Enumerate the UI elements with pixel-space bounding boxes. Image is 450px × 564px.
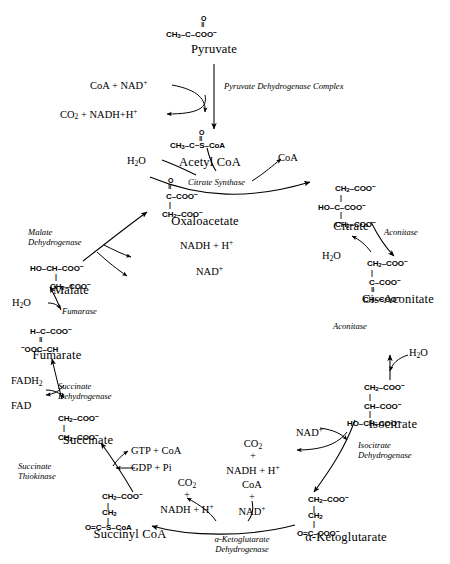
cofactor-fad: FAD [11,400,31,411]
citric-acid-cycle-diagram: O ‖ CH3–C–COO– Pyruvate CoA + NAD+ CO2 +… [0,0,450,564]
cofactor-nad-idh: NAD+ [296,425,323,438]
enzyme-malate-dehydrogenase: Malate Dehydrogenase [28,228,82,247]
enzyme-sdh-line2: Dehydrogenase [58,391,112,401]
enzyme-isocitrate-dehydrogenase: Isocitrate Dehydrogenase [358,441,412,460]
cofactor-gdp-pi: GDP + Pi [131,462,172,473]
label-malate: Malate [30,283,112,298]
label-cis-aconitate: Cis-Aconitate [348,292,448,307]
label-citrate: Citrate [316,219,386,234]
enzyme-mdh-line1: Malate [28,227,52,237]
structure-acetyl-coa: O ‖ CH3–C~S–CoA [170,130,225,152]
label-pyruvate: Pyruvate [166,42,262,57]
cofactor-coa-nad-in: CoA + NAD+ [90,78,147,91]
cofactor-fadh2: FADH2 [11,375,43,388]
enzyme-aconitase-2: Aconitase [333,322,367,332]
label-succinyl-coa: Succinyl CoA [82,527,178,542]
enzyme-succinate-thiokinase: Succinate Thiokinase [18,462,56,481]
label-alpha-ketoglutarate: α-Ketoglutarate [286,530,406,545]
enzyme-succinate-dehydrogenase: Succinate Dehydrogenase [58,382,112,401]
enzyme-idh-line1: Isocitrate [358,440,391,450]
enzyme-kgdh-line1: α-Ketoglutarate [214,534,269,544]
cofactor-nad-mdh: NAD+ [196,264,223,277]
enzyme-mdh-line2: Dehydrogenase [28,237,82,247]
enzyme-thiokinase-line2: Thiokinase [18,471,56,481]
label-isocitrate: Isocitrate [355,417,431,432]
cofactor-water-citrate-synthase: H2O [127,155,146,168]
cofactor-coa-released: CoA [278,152,298,163]
cofactor-co2-nadh-out: CO2 + NADH+H+ [60,107,138,121]
cofactor-plus-kgdh-in: + [227,491,277,504]
enzyme-thiokinase-line1: Succinate [18,461,51,471]
label-succinate: Succinate [46,433,130,448]
cofactor-nadh-mdh: NADH + H+ [180,238,233,251]
cofactor-plus-idh: + [216,450,290,463]
cofactor-gtp-coa: GTP + CoA [131,445,181,456]
label-oxaloacetate: Oxaloacetate [155,214,255,229]
enzyme-idh-line2: Dehydrogenase [358,450,412,460]
cofactor-coa-kgdh: CoA [227,479,277,492]
cofactor-nadh-idh: NADH + H+ [216,462,290,477]
enzyme-sdh-line1: Succinate [58,381,91,391]
cofactor-nad-kgdh: NAD+ [227,503,277,518]
enzyme-alpha-ketoglutarate-dehydrogenase: α-Ketoglutarate Dehydrogenase [188,535,296,554]
enzyme-fumarase: Fumarase [62,307,97,317]
enzyme-pyruvate-dehydrogenase-complex: Pyruvate Dehydrogenase Complex [224,82,343,92]
cofactor-plus-kgdh-out: + [148,489,226,502]
cofactor-water-aconitase-2: H2O [409,347,428,360]
cofactor-water-aconitase-1: H2O [322,250,341,263]
cofactor-water-fumarase: H2O [12,297,31,310]
enzyme-aconitase-1: Aconitase [384,228,418,238]
label-acetyl-coa: Acetyl CoA [165,155,255,170]
structure-pyruvate: O ‖ CH3–C–COO– [166,16,217,41]
label-fumarate: Fumarate [18,348,96,363]
enzyme-kgdh-line2: Dehydrogenase [215,544,269,554]
cofactor-nadh-kgdh: NADH + H+ [148,501,226,516]
